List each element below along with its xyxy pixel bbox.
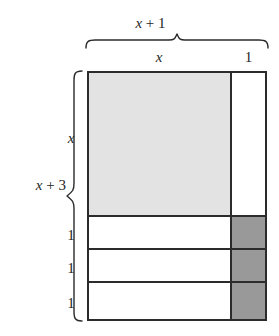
area-cell-unit-1 — [230, 217, 265, 248]
top-brace-icon — [85, 33, 269, 49]
left-total-label: x + 3 — [6, 178, 66, 193]
figure-canvas: x + 1 x 1 x + 3 x 1 1 1 — [0, 0, 279, 336]
area-cell-x-right — [230, 73, 265, 215]
area-cell-unit-3 — [230, 283, 265, 319]
row-label-1-first: 1 — [60, 228, 82, 243]
area-cell-x-bottom-2 — [89, 250, 230, 281]
left-total-constant: 3 — [59, 177, 67, 193]
row-label-x: x — [60, 131, 82, 146]
area-row-1-second — [89, 248, 265, 281]
area-row-1-third — [89, 281, 265, 319]
row-label-1-second: 1 — [60, 261, 82, 276]
column-divider — [230, 73, 232, 319]
area-cell-unit-2 — [230, 250, 265, 281]
area-row-1-first — [89, 215, 265, 248]
left-brace-icon — [66, 70, 84, 322]
top-total-label: x + 1 — [11, 16, 279, 31]
left-total-operator: + — [46, 177, 54, 193]
top-total-constant: 1 — [158, 15, 166, 31]
column-label-x: x — [88, 50, 230, 65]
left-total-variable: x — [36, 177, 43, 193]
area-row-x — [89, 73, 265, 215]
row-label-1-third: 1 — [60, 296, 82, 311]
area-cell-x-bottom-3 — [89, 283, 230, 319]
area-cell-x-bottom-1 — [89, 217, 230, 248]
column-label-1: 1 — [230, 50, 267, 65]
area-model-grid — [87, 71, 267, 321]
area-cell-x-squared — [89, 73, 230, 215]
